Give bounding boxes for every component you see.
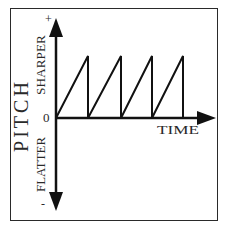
time-label: TIME	[157, 123, 199, 137]
pitch-label: PITCH	[10, 79, 32, 152]
sharper-label: SHARPER	[34, 35, 48, 95]
arrow-down-icon	[49, 192, 63, 211]
plus-sign: +	[45, 12, 52, 26]
arrow-right-icon	[197, 111, 216, 125]
minus-sign: -	[41, 197, 45, 211]
sawtooth-waveform	[56, 56, 183, 118]
pitch-time-diagram: + - 0 TIME PITCH SHARPER FLATTER	[0, 0, 228, 227]
flatter-label: FLATTER	[34, 137, 48, 192]
origin-label: 0	[43, 110, 50, 125]
